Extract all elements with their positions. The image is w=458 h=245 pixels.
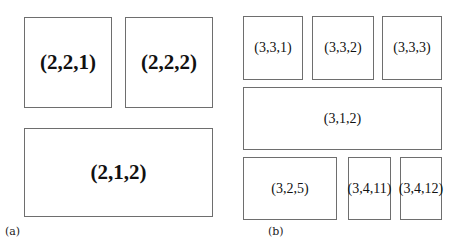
subplot-label: (3,4,11) [348,181,392,197]
subplot-3-4-12: (3,4,12) [400,157,442,220]
subplot-3-2-5: (3,2,5) [243,157,337,220]
subplot-label: (2,2,2) [141,50,197,75]
subplot-3-4-11: (3,4,11) [348,157,391,220]
subplot-label: (3,2,5) [271,181,308,197]
subplot-2-2-1: (2,2,1) [24,17,112,108]
subplot-label: (3,3,2) [324,40,361,56]
subplot-2-2-2: (2,2,2) [125,17,213,108]
subplot-3-3-2: (3,3,2) [312,16,374,80]
subplot-label: (2,2,1) [40,50,96,75]
subplot-3-3-1: (3,3,1) [243,16,303,80]
subplot-label: (3,1,2) [324,111,361,127]
subplot-3-3-3: (3,3,3) [382,16,442,80]
subplot-label: (3,4,12) [399,181,443,197]
panel-b-caption: (b) [268,225,284,238]
subplot-3-1-2: (3,1,2) [243,87,442,150]
subplot-label: (3,3,1) [254,40,291,56]
subplot-label: (2,1,2) [91,160,147,185]
subplot-2-1-2: (2,1,2) [24,128,213,217]
panel-a-caption: (a) [5,225,20,238]
subplot-label: (3,3,3) [393,40,430,56]
